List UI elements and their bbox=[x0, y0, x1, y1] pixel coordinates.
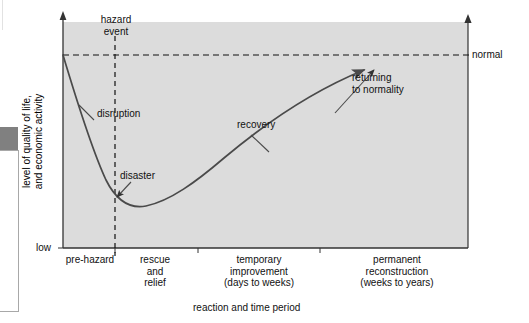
returning-label-line2: to normality bbox=[352, 84, 438, 96]
y-axis-label: level of quality of life, and economic a… bbox=[21, 84, 44, 200]
y-axis-label-line1: level of quality of life, bbox=[21, 84, 33, 200]
x-axis-title: reaction and time period bbox=[193, 302, 300, 314]
plot-area-background bbox=[63, 22, 468, 248]
hazard-event-label-line2: event bbox=[92, 26, 140, 38]
x-axis-category-pre-hazard: pre-hazard bbox=[62, 254, 118, 266]
x-axis-category-rescue-line3: relief bbox=[126, 277, 184, 289]
x-axis-category-temporary-line1: temporary bbox=[198, 254, 320, 266]
x-axis-category-temporary-improvement: temporary improvement (days to weeks) bbox=[198, 254, 320, 289]
x-axis-category-permanent-line1: permanent bbox=[330, 254, 464, 266]
x-axis-category-temporary-line2: improvement bbox=[198, 266, 320, 278]
disaster-label: disaster bbox=[120, 170, 155, 182]
figure-canvas: hazard event normal disruption disaster … bbox=[0, 0, 529, 323]
x-axis-category-pre-hazard-line1: pre-hazard bbox=[62, 254, 118, 266]
normal-label: normal bbox=[472, 49, 503, 61]
x-axis-category-rescue-line2: and bbox=[126, 266, 184, 278]
x-axis-category-temporary-line3: (days to weeks) bbox=[198, 277, 320, 289]
x-axis-category-permanent-line3: (weeks to years) bbox=[330, 277, 464, 289]
hazard-event-label: hazard event bbox=[92, 14, 140, 37]
y-axis-label-line2: and economic activity bbox=[32, 84, 44, 200]
x-axis-category-permanent-line2: reconstruction bbox=[330, 266, 464, 278]
x-axis-category-rescue-line1: rescue bbox=[126, 254, 184, 266]
returning-to-normality-label: returning to normality bbox=[352, 72, 438, 95]
x-axis-category-permanent-reconstruction: permanent reconstruction (weeks to years… bbox=[330, 254, 464, 289]
y-axis-arrow bbox=[60, 11, 67, 20]
recovery-label: recovery bbox=[237, 119, 275, 131]
x-axis-category-rescue-relief: rescue and relief bbox=[126, 254, 184, 289]
hazard-event-label-line1: hazard bbox=[92, 14, 140, 26]
disruption-label: disruption bbox=[97, 108, 140, 120]
right-frame-arrow bbox=[464, 14, 471, 23]
y-axis-low-label: low bbox=[36, 242, 51, 254]
returning-label-line1: returning bbox=[352, 72, 438, 84]
